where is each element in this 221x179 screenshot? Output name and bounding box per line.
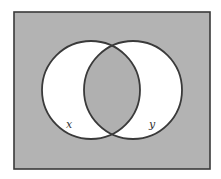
set-x-label: x — [66, 118, 73, 131]
venn-diagram: x y — [0, 0, 221, 179]
set-y-label: y — [148, 118, 156, 131]
venn-svg: x y — [0, 0, 221, 179]
